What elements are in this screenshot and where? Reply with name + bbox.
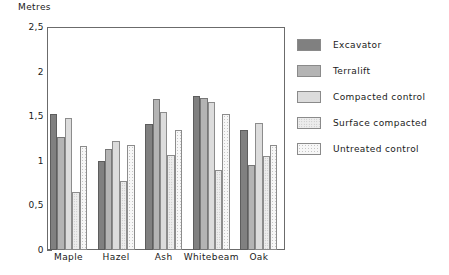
y-axis-tick-labels: 00,511,522,5 — [0, 27, 44, 250]
legend-item: Excavator — [297, 32, 445, 58]
bar — [112, 141, 119, 250]
bar — [175, 130, 182, 250]
bar — [57, 137, 64, 250]
legend-item: Surface compacted — [297, 110, 445, 136]
bar — [65, 118, 72, 250]
bar — [215, 170, 222, 250]
legend-swatch-icon — [297, 117, 321, 129]
x-axis-category-label: Whitebeam — [184, 252, 239, 262]
bar — [72, 192, 79, 250]
bar — [50, 114, 57, 250]
legend-item-label: Excavator — [333, 40, 382, 50]
bar — [255, 123, 262, 250]
bar — [222, 114, 229, 250]
bar-chart: Metres 00,511,522,5 MapleHazelAshWhitebe… — [0, 0, 449, 275]
legend-item: Terralift — [297, 58, 445, 84]
bar — [263, 156, 270, 250]
bar — [80, 146, 87, 250]
x-axis-category-label: Oak — [249, 252, 268, 262]
legend-swatch-icon — [297, 143, 321, 155]
bar — [270, 145, 277, 250]
bar — [120, 181, 127, 250]
bar — [127, 145, 134, 250]
bar — [248, 165, 255, 250]
bar — [145, 124, 152, 250]
y-axis-title: Metres — [18, 2, 51, 12]
legend-item-label: Terralift — [333, 66, 370, 76]
bar — [167, 155, 174, 250]
y-axis-tick-label: 1,5 — [4, 111, 44, 121]
bar — [153, 99, 160, 250]
x-axis-category-label: Maple — [54, 252, 83, 262]
legend-swatch-icon — [297, 65, 321, 77]
legend-item-label: Untreated control — [333, 144, 419, 154]
x-axis-category-label: Hazel — [103, 252, 130, 262]
legend-item-label: Compacted control — [333, 92, 425, 102]
legend-swatch-icon — [297, 39, 321, 51]
bar-series-layer — [47, 27, 285, 250]
y-axis-tick-label: 2 — [4, 67, 44, 77]
y-axis-tick-label: 0,5 — [4, 200, 44, 210]
x-axis-category-label: Ash — [155, 252, 173, 262]
x-axis-category-labels: MapleHazelAshWhitebeamOak — [47, 252, 285, 270]
bar — [160, 112, 167, 250]
bar — [105, 149, 112, 250]
bar — [200, 98, 207, 250]
bar — [240, 130, 247, 250]
chart-legend: ExcavatorTerraliftCompacted controlSurfa… — [297, 32, 445, 162]
y-axis-major-tick — [47, 250, 52, 251]
legend-item: Compacted control — [297, 84, 445, 110]
y-axis-tick-label: 1 — [4, 156, 44, 166]
legend-item: Untreated control — [297, 136, 445, 162]
legend-swatch-icon — [297, 91, 321, 103]
bar — [208, 102, 215, 250]
bar — [98, 161, 105, 250]
y-axis-tick-label: 2,5 — [4, 22, 44, 32]
y-axis-tick-label: 0 — [4, 245, 44, 255]
bar — [193, 96, 200, 250]
legend-item-label: Surface compacted — [333, 118, 427, 128]
